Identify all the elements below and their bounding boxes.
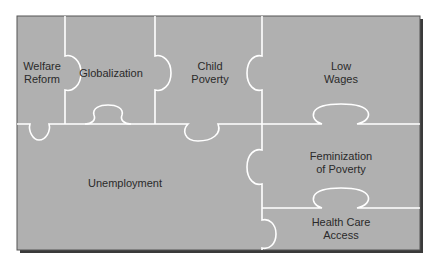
piece-welfare-reform: Welfare Reform: [23, 60, 61, 86]
piece-globalization: Globalization: [79, 67, 143, 80]
piece-health-care-access: Health Care Access: [312, 216, 371, 242]
puzzle-graphic: [0, 0, 439, 263]
piece-feminization-of-poverty: Feminization of Poverty: [310, 150, 372, 176]
puzzle-diagram: Welfare Reform Globalization Child Pover…: [0, 0, 439, 263]
piece-low-wages: Low Wages: [324, 60, 358, 86]
piece-unemployment: Unemployment: [88, 177, 162, 190]
piece-child-poverty: Child Poverty: [191, 60, 228, 86]
